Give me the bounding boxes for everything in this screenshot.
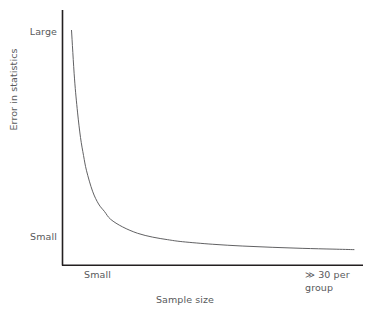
x-tick-label-small: Small: [84, 269, 111, 280]
error-decay-curve: [72, 30, 354, 249]
endpoint-annotation: ≫ 30 per group: [305, 269, 367, 294]
endpoint-annotation-line-1: ≫ 30 per: [305, 269, 367, 282]
y-tick-label-large: Large: [30, 26, 57, 37]
x-axis-title: Sample size: [0, 294, 370, 305]
y-axis-title: Error in statistics: [8, 30, 19, 150]
y-tick-label-small: Small: [30, 231, 57, 242]
chart-figure: Large Small Small Sample size Error in s…: [0, 0, 370, 326]
endpoint-annotation-line-2: group: [305, 282, 367, 295]
